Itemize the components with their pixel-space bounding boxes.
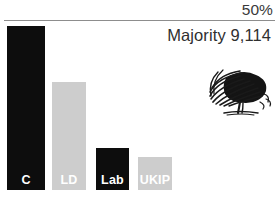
scribbled-tree-icon-svg bbox=[196, 58, 278, 118]
bar-lab[interactable]: Lab bbox=[96, 148, 129, 190]
election-bar-chart: 50% Majority 9,114 bbox=[0, 0, 279, 200]
bar-c[interactable]: C bbox=[7, 26, 45, 190]
bar-ld[interactable]: LD bbox=[52, 82, 86, 190]
bar-label-lab: Lab bbox=[96, 174, 129, 187]
threshold-label: 50% bbox=[242, 0, 273, 20]
majority-label: Majority 9,114 bbox=[167, 26, 271, 45]
scribbled-tree-icon bbox=[196, 58, 278, 118]
bar-label-ld: LD bbox=[52, 174, 86, 187]
bar-ukip[interactable]: UKIP bbox=[138, 157, 172, 190]
bar-label-ukip: UKIP bbox=[138, 174, 172, 187]
bar-label-c: C bbox=[7, 174, 45, 187]
threshold-line bbox=[4, 20, 275, 21]
